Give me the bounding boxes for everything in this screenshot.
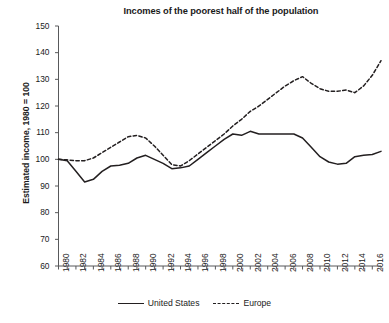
series-line-united-states [59,131,382,182]
series-line-europe [59,61,382,166]
legend-label: United States [148,298,200,308]
plot-area [0,0,389,323]
chart-container: Incomes of the poorest half of the popul… [0,0,389,323]
chart-legend: United StatesEurope [0,298,389,308]
legend-item[interactable]: Europe [213,298,271,308]
legend-swatch-dashed [213,303,239,304]
legend-item[interactable]: United States [118,298,200,308]
legend-label: Europe [243,298,271,308]
legend-swatch-solid [118,303,144,304]
